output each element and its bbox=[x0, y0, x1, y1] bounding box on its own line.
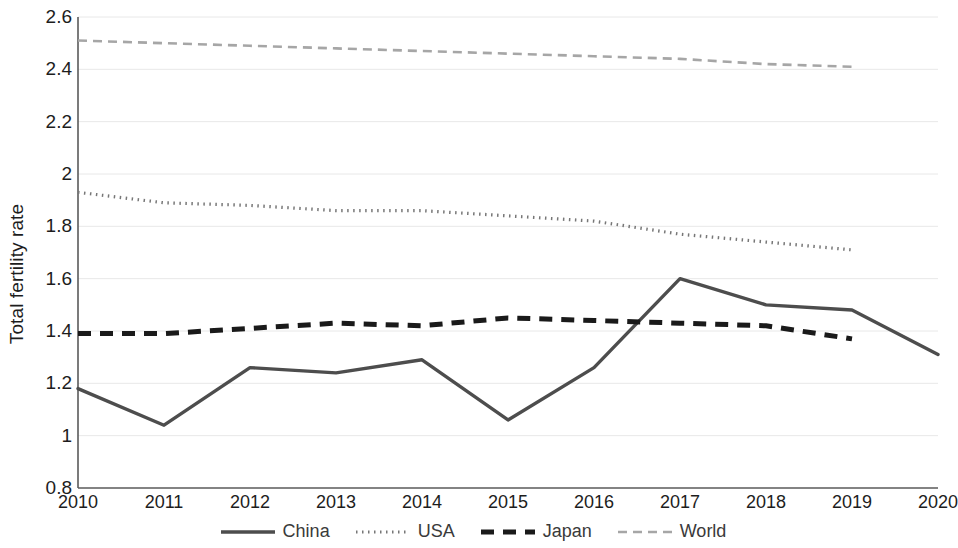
y-tick-label: 1.2 bbox=[28, 372, 72, 394]
x-tick-label: 2011 bbox=[145, 492, 184, 513]
series-line-usa bbox=[78, 192, 852, 250]
x-tick-label: 2014 bbox=[402, 492, 442, 513]
legend-swatch-icon bbox=[221, 526, 275, 538]
y-tick-label: 2 bbox=[28, 163, 72, 185]
y-tick-label: 2.2 bbox=[28, 111, 72, 133]
y-tick-label: 1.4 bbox=[28, 320, 72, 342]
x-tick-label: 2017 bbox=[660, 492, 700, 513]
legend-swatch-icon bbox=[618, 526, 672, 538]
legend-item-usa[interactable]: USA bbox=[356, 521, 455, 542]
legend-item-world[interactable]: World bbox=[618, 521, 727, 542]
y-tick-label: 2.4 bbox=[28, 58, 72, 80]
y-axis-tick-labels: 0.811.21.41.61.822.22.42.6 bbox=[26, 0, 72, 548]
series-line-world bbox=[78, 41, 852, 67]
x-tick-label: 2012 bbox=[230, 492, 270, 513]
legend-label: Japan bbox=[543, 521, 592, 542]
x-tick-label: 2013 bbox=[316, 492, 356, 513]
legend-item-japan[interactable]: Japan bbox=[481, 521, 592, 542]
series-line-japan bbox=[78, 318, 852, 339]
y-tick-label: 1.6 bbox=[28, 268, 72, 290]
x-tick-label: 2016 bbox=[574, 492, 614, 513]
legend-label: China bbox=[283, 521, 330, 542]
legend-swatch-icon bbox=[356, 526, 410, 538]
series-line-china bbox=[78, 279, 938, 426]
x-tick-label: 2015 bbox=[488, 492, 528, 513]
y-tick-label: 1.8 bbox=[28, 215, 72, 237]
y-tick-label: 1 bbox=[28, 425, 72, 447]
legend-item-china[interactable]: China bbox=[221, 521, 330, 542]
legend-label: USA bbox=[418, 521, 455, 542]
x-tick-label: 2020 bbox=[918, 492, 958, 513]
x-tick-label: 2010 bbox=[58, 492, 98, 513]
x-tick-label: 2018 bbox=[746, 492, 786, 513]
y-tick-label: 2.6 bbox=[28, 6, 72, 28]
legend-label: World bbox=[680, 521, 727, 542]
legend-swatch-icon bbox=[481, 526, 535, 538]
chart-legend: ChinaUSAJapanWorld bbox=[0, 521, 947, 542]
x-tick-label: 2019 bbox=[832, 492, 872, 513]
